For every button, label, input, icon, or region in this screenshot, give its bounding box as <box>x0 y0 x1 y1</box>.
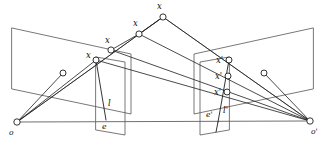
label-left-image-point: x <box>86 50 91 60</box>
label-scene-point-low: x <box>105 35 110 45</box>
label-right-image-point-low: x' <box>214 87 221 97</box>
right-image-point-low-dot <box>224 89 230 95</box>
right-aux-point-dot <box>261 70 267 76</box>
baseline <box>17 121 310 122</box>
label-right-image-point-top: x' <box>216 55 223 65</box>
right-image-point-mid-dot <box>225 73 231 79</box>
right-epipolar-line-lower-extension <box>216 122 218 132</box>
label-scene-point-top: x <box>157 1 162 11</box>
right-camera-center-dot <box>307 118 313 124</box>
left-ray-to-aux-point <box>17 73 63 122</box>
epipolar-diagram-canvas: x x x x l e o x' x' x' l' e' o' <box>0 0 325 146</box>
label-scene-point-mid: x <box>133 18 138 28</box>
label-right-camera-center: o' <box>311 127 318 136</box>
scene-point-low-dot <box>108 47 114 53</box>
scene-chain-low-to-mid <box>111 34 139 50</box>
scene-point-top-dot <box>160 14 166 20</box>
scene-point-mid-dot <box>136 31 142 37</box>
epipolar-geometry-figure: x x x x l e o x' x' x' l' e' o' <box>0 0 325 146</box>
label-left-epipolar-line: l <box>108 98 111 108</box>
label-right-image-point-mid: x' <box>215 71 222 81</box>
right-image-point-top-dot <box>226 57 232 63</box>
left-image-point-dot <box>93 57 99 63</box>
scene-chain-mid-to-top <box>139 17 163 34</box>
left-epipolar-line <box>96 60 106 120</box>
left-aux-point-dot <box>60 70 66 76</box>
label-left-camera-center: o <box>9 128 14 137</box>
label-right-epipolar-line: l' <box>223 105 228 115</box>
left-image-plane <box>96 57 125 135</box>
label-right-epipole: e' <box>206 110 213 119</box>
left-backplane <box>12 28 131 114</box>
left-ray-through-image-point <box>17 60 96 122</box>
left-camera-center-dot <box>14 119 20 125</box>
label-left-epipole: e <box>102 122 107 131</box>
right-ray-to-aux-point <box>264 73 310 121</box>
